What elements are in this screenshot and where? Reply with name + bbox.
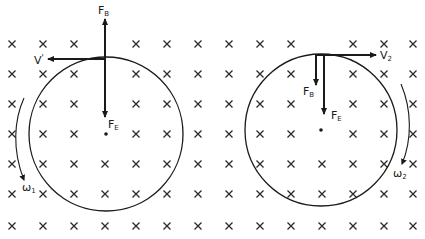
field-cross-icon [226,223,233,230]
field-cross-icon [226,191,233,198]
field-cross-icon [195,161,202,168]
field-cross-icon [9,161,16,168]
field-cross-icon [381,223,388,230]
field-cross-icon [164,131,171,138]
field-cross-icon [9,101,16,108]
field-cross-icon [257,71,264,78]
field-cross-icon [164,101,171,108]
left-center-dot [104,132,108,136]
field-cross-icon [40,71,47,78]
field-cross-icon [350,101,357,108]
field-cross-icon [40,41,47,48]
field-cross-icon [40,101,47,108]
field-cross-icon [410,161,417,168]
field-cross-icon [226,101,233,108]
field-cross-icon [257,223,264,230]
field-cross-icon [288,191,295,198]
field-cross-icon [381,191,388,198]
field-cross-icon [9,223,16,230]
field-cross-icon [350,41,357,48]
field-cross-icon [71,131,78,138]
field-cross-icon [40,161,47,168]
field-cross-icon [288,161,295,168]
field-cross-icon [350,71,357,78]
field-cross-icon [164,41,171,48]
right-velocity-label: V2 [380,49,392,63]
field-cross-icon [410,71,417,78]
field-cross-icon [410,191,417,198]
diagram-canvas: FB V' FE ω1 V2 FB FE ω2 [0,0,425,239]
field-cross-icon [257,161,264,168]
field-cross-icon [350,161,357,168]
left-omega-label: ω1 [22,181,36,195]
magnetic-field-into-page [9,41,417,230]
left-omega-arrow [16,98,24,180]
field-cross-icon [257,191,264,198]
field-cross-icon [226,71,233,78]
field-cross-icon [226,161,233,168]
field-cross-icon [102,161,109,168]
field-cross-icon [71,71,78,78]
field-cross-icon [195,71,202,78]
field-cross-icon [195,191,202,198]
field-cross-icon [40,191,47,198]
field-cross-icon [195,223,202,230]
field-cross-icon [257,131,264,138]
field-cross-icon [133,223,140,230]
field-cross-icon [133,41,140,48]
field-cross-icon [133,131,140,138]
field-cross-icon [133,191,140,198]
field-cross-icon [350,191,357,198]
left-velocity-label: V' [34,54,44,67]
field-cross-icon [164,191,171,198]
right-center-dot [319,128,323,132]
field-cross-icon [381,161,388,168]
field-cross-icon [40,131,47,138]
field-cross-icon [133,71,140,78]
field-cross-icon [71,223,78,230]
field-cross-icon [410,131,417,138]
field-cross-icon [133,161,140,168]
field-cross-icon [102,223,109,230]
field-cross-icon [9,191,16,198]
field-cross-icon [381,101,388,108]
field-cross-icon [257,101,264,108]
field-cross-icon [288,223,295,230]
field-cross-icon [319,161,326,168]
field-cross-icon [288,71,295,78]
field-cross-icon [71,41,78,48]
field-cross-icon [9,71,16,78]
field-cross-icon [195,101,202,108]
field-cross-icon [410,101,417,108]
field-cross-icon [164,223,171,230]
field-cross-icon [9,131,16,138]
field-cross-icon [226,131,233,138]
field-cross-icon [319,223,326,230]
right-omega-label: ω2 [393,167,407,181]
field-cross-icon [410,41,417,48]
left-fe-label: FE [108,118,119,132]
field-cross-icon [226,41,233,48]
field-cross-icon [288,131,295,138]
field-cross-icon [195,131,202,138]
field-cross-icon [350,131,357,138]
right-omega-arrow [401,84,409,164]
right-fb-label: FB [303,85,314,99]
field-cross-icon [40,223,47,230]
field-cross-icon [71,161,78,168]
field-cross-icon [9,41,16,48]
field-cross-icon [319,191,326,198]
field-cross-icon [195,41,202,48]
field-cross-icon [102,191,109,198]
left-orbit: FB V' FE ω1 [16,4,183,211]
field-cross-icon [381,41,388,48]
field-cross-icon [381,71,388,78]
field-cross-icon [410,223,417,230]
field-cross-icon [350,223,357,230]
field-cross-icon [71,191,78,198]
field-cross-icon [288,41,295,48]
field-cross-icon [288,101,295,108]
field-cross-icon [164,161,171,168]
field-cross-icon [164,71,171,78]
field-cross-icon [71,101,78,108]
